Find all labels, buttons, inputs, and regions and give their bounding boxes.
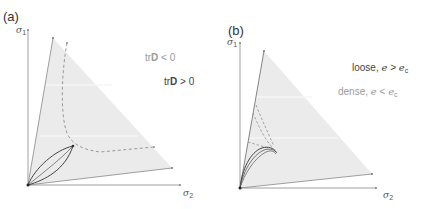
panel-b-sigma1-tick bbox=[239, 42, 241, 44]
panel-a-annotation-trD-positive: trD > 0 bbox=[164, 76, 195, 87]
panel-b-origin-point bbox=[239, 187, 242, 190]
panel-a-apex-tick bbox=[52, 37, 54, 39]
panel-a-dashed-start-tick bbox=[66, 42, 68, 44]
panel-b-annotation-loose: loose, e > ec bbox=[352, 62, 409, 74]
panel-a-sigma1-label: σ1 bbox=[16, 25, 26, 36]
panel-a-sigma1-tick bbox=[27, 29, 29, 31]
panel-b-sigma1-label: σ1 bbox=[227, 37, 237, 48]
panel-b-label: (b) bbox=[228, 23, 244, 38]
panel-a-peak-point bbox=[72, 145, 75, 148]
panel-a: (a) σ1 σ2 trD < 0 trD > 0 bbox=[3, 9, 195, 199]
panel-a-origin-point bbox=[27, 184, 30, 187]
panel-a-label: (a) bbox=[3, 9, 19, 24]
panel-b-sigma2-label: σ2 bbox=[383, 190, 393, 201]
panel-a-annotation-trD-negative: trD < 0 bbox=[145, 52, 176, 63]
panel-b: (b) σ1 σ2 loose, e > ec dense, e < ec bbox=[227, 23, 409, 201]
panel-a-dashed-end-tick bbox=[153, 146, 155, 148]
panel-a-sigma2-tick bbox=[179, 184, 181, 186]
panel-b-annotation-dense: dense, e < ec bbox=[338, 86, 398, 98]
panel-a-right-tick bbox=[171, 167, 173, 169]
panel-b-apex-tick bbox=[263, 50, 265, 52]
panel-a-sigma2-label: σ2 bbox=[183, 188, 193, 199]
panel-b-right-tick bbox=[371, 173, 373, 175]
panel-b-sigma2-tick bbox=[375, 187, 377, 189]
stress-space-figure: (a) σ1 σ2 trD < 0 trD > 0 (b bbox=[0, 0, 421, 209]
